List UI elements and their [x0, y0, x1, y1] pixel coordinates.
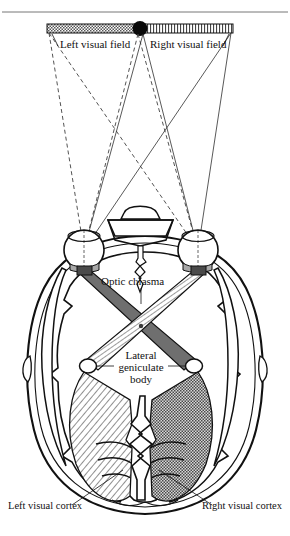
right-visual-field-bar — [140, 24, 233, 33]
left-optic-nerve-stub — [77, 266, 92, 275]
label-lateral-geniculate-line1: Lateral — [125, 349, 156, 361]
label-lateral-geniculate-line2: geniculate — [118, 361, 163, 373]
left-lateral-bump — [23, 356, 31, 382]
label-left-visual-cortex: Left visual cortex — [8, 500, 83, 511]
label-right-visual-field: Right visual field — [150, 38, 227, 50]
nasal-plate — [108, 220, 173, 236]
label-optic-chiasma: Optic chiasma — [101, 275, 164, 287]
label-right-visual-cortex: Right visual cortex — [202, 500, 283, 511]
right-lateral-geniculate-body — [186, 359, 203, 373]
anatomy-diagram-svg: Left visual field Right visual field Opt… — [0, 0, 290, 536]
fixation-point-dot — [133, 21, 148, 36]
left-lateral-geniculate-body — [80, 359, 97, 373]
visual-pathway-figure: Left visual field Right visual field Opt… — [0, 0, 290, 536]
nasal-bridge — [121, 206, 160, 219]
label-left-visual-field: Left visual field — [60, 38, 131, 50]
right-lateral-bump — [259, 356, 267, 382]
chiasma-crossing-point — [139, 324, 143, 328]
right-optic-nerve-stub — [191, 266, 206, 275]
visual-field-bar — [47, 21, 233, 36]
label-lateral-geniculate-line3: body — [130, 373, 153, 385]
left-visual-field-bar — [47, 24, 140, 33]
leader-left-field-tick — [52, 34, 58, 46]
